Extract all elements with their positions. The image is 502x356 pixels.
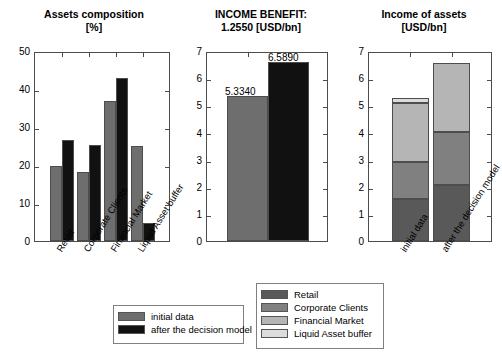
panel1-ylabel-50: 50 (8, 47, 30, 57)
panel2-ylabel-6: 6 (184, 74, 202, 84)
stack-initial-corporate (392, 162, 429, 199)
legend-swatch-liquid-asset-buffer (261, 329, 288, 338)
panel2-ylabel-4: 4 (184, 129, 202, 139)
panel3-title: Income of assets [USD/bn] (354, 8, 494, 34)
bar-corporate-initial (77, 172, 89, 241)
legend-row-after-model: after the decision model (118, 323, 238, 335)
panel1-ytick-30 (35, 129, 39, 130)
panel2-ytick-right-5 (323, 107, 327, 108)
bar-retail-after (62, 140, 74, 241)
legend-series: initial data after the decision model (113, 305, 244, 344)
panel2-value-initial: 5.3340 (225, 86, 256, 97)
panel1-ytick-40 (35, 91, 39, 92)
panel1-ylabel-0: 0 (8, 237, 30, 247)
bar-income-after (268, 62, 309, 241)
panel2-title: INCOME BENEFIT: 1.2550 [USD/bn] (186, 8, 336, 34)
panel2-ylabel-5: 5 (184, 101, 202, 111)
panel2-plot-area (206, 52, 328, 242)
panel3-title-line2: [USD/bn] (354, 21, 494, 34)
stack-initial-liquid (392, 98, 429, 103)
panel1-ylabel-10: 10 (8, 199, 30, 209)
legend-swatch-after-model (118, 325, 145, 334)
panel2-ylabel-3: 3 (184, 156, 202, 166)
panel2-xtick-top-1 (248, 53, 249, 57)
panel2-ytick-1 (207, 216, 211, 217)
legend-row-corporate-clients: Corporate Clients (261, 301, 378, 313)
panel2-value-after: 6.5890 (268, 52, 299, 63)
legend-row-financial-market: Financial Market (261, 314, 378, 326)
panel2-ytick-right-4 (323, 134, 327, 135)
panel3-ytick-4 (369, 134, 373, 135)
panel3-ylabel-0: 0 (346, 237, 364, 247)
legend-label-initial-data: initial data (151, 311, 194, 322)
panel3-xtick-top-2 (452, 53, 453, 57)
panel1-ytick-right-40 (165, 91, 169, 92)
panel3-ylabel-4: 4 (346, 129, 364, 139)
legend-label-retail: Retail (294, 289, 318, 300)
panel2-title-line1: INCOME BENEFIT: (186, 8, 336, 21)
panel2-ytick-3 (207, 162, 211, 163)
stack-after-financial (433, 63, 470, 131)
panel3-ytick-3 (369, 162, 373, 163)
legend-label-liquid-asset-buffer: Liquid Asset buffer (294, 328, 372, 339)
panel1-ytick-10 (35, 205, 39, 206)
stack-after-corporate (433, 132, 470, 185)
panel1-ytick-right-20 (165, 167, 169, 168)
stack-initial-financial (392, 103, 429, 162)
panel2-ytick-2 (207, 189, 211, 190)
panel-assets-composition: Assets composition [%] (0, 0, 178, 356)
panel2-ylabel-7: 7 (184, 47, 202, 57)
panel3-ytick-right-4 (487, 134, 491, 135)
panel3-ytick-right-1 (487, 216, 491, 217)
legend-label-financial-market: Financial Market (294, 315, 364, 326)
panel1-xtick-top-2 (89, 53, 90, 57)
legend-row-initial-data: initial data (118, 310, 238, 322)
legend-label-after-model: after the decision model (151, 324, 252, 335)
panel1-ylabel-30: 30 (8, 123, 30, 133)
legend-row-liquid-asset-buffer: Liquid Asset buffer (261, 327, 378, 339)
panel1-xtick-top-4 (143, 53, 144, 57)
panel1-title: Assets composition [%] (14, 8, 174, 34)
legend-swatch-corporate-clients (261, 303, 288, 312)
panel1-xtick-top-1 (62, 53, 63, 57)
panel2-ylabel-2: 2 (184, 183, 202, 193)
panel2-ytick-6 (207, 80, 211, 81)
panel3-ytick-5 (369, 107, 373, 108)
panel1-ylabel-20: 20 (8, 161, 30, 171)
panel3-ylabel-1: 1 (346, 210, 364, 220)
panel3-xtick-top-1 (410, 53, 411, 57)
panel2-ytick-4 (207, 134, 211, 135)
panel3-ytick-2 (369, 189, 373, 190)
panel3-ylabel-6: 6 (346, 74, 364, 84)
panel1-ytick-20 (35, 167, 39, 168)
panel1-ytick-right-30 (165, 129, 169, 130)
panel2-title-line2: 1.2550 [USD/bn] (186, 21, 336, 34)
panel2-ylabel-1: 1 (184, 210, 202, 220)
panel2-ytick-right-1 (323, 216, 327, 217)
panel1-xtick-top-3 (116, 53, 117, 57)
panel2-ytick-right-3 (323, 162, 327, 163)
panel3-ylabel-5: 5 (346, 101, 364, 111)
panel1-title-line2: [%] (14, 21, 174, 34)
panel3-ytick-right-6 (487, 80, 491, 81)
panel2-ytick-right-2 (323, 189, 327, 190)
panel3-ytick-1 (369, 216, 373, 217)
bar-income-initial (227, 96, 268, 241)
legend-label-corporate-clients: Corporate Clients (294, 302, 368, 313)
panel3-title-line1: Income of assets (354, 8, 494, 21)
legend-swatch-financial-market (261, 316, 288, 325)
panel2-ytick-right-6 (323, 80, 327, 81)
panel3-ytick-6 (369, 80, 373, 81)
panel3-ylabel-2: 2 (346, 183, 364, 193)
panel3-ytick-right-3 (487, 162, 491, 163)
panel1-ylabel-40: 40 (8, 85, 30, 95)
panel2-ytick-5 (207, 107, 211, 108)
legend-asset-classes: Retail Corporate Clients Financial Marke… (256, 283, 384, 349)
panel1-title-line1: Assets composition (14, 8, 174, 21)
legend-swatch-initial-data (118, 312, 145, 321)
panel3-ytick-right-5 (487, 107, 491, 108)
panel2-ylabel-0: 0 (184, 237, 202, 247)
panel3-ylabel-7: 7 (346, 47, 364, 57)
legend-swatch-retail (261, 290, 288, 299)
legend-row-retail: Retail (261, 288, 378, 300)
